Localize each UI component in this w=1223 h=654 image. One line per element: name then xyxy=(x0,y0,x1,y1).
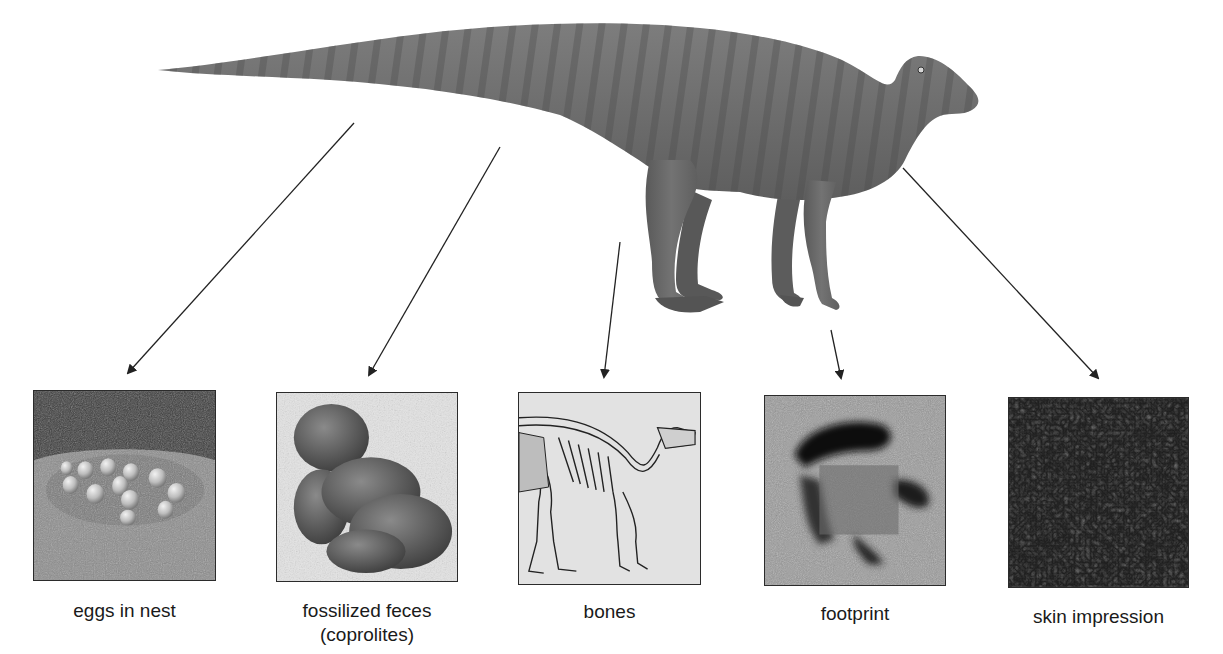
caption-text: skin impression xyxy=(1033,606,1164,627)
caption-eggs-in-nest: eggs in nest xyxy=(33,599,216,623)
fossil-evidence-diagram: eggs in nest fossilized feces (coprolite… xyxy=(0,0,1223,654)
caption-text: bones xyxy=(584,601,636,622)
caption-text: fossilized feces xyxy=(256,599,478,623)
caption-subtext: (coprolites) xyxy=(256,623,478,647)
caption-text: footprint xyxy=(821,603,890,624)
caption-skin-impression: skin impression xyxy=(998,605,1199,629)
skin-impression-image xyxy=(1008,397,1189,588)
caption-footprint: footprint xyxy=(764,602,946,626)
coprolite-image xyxy=(276,392,458,582)
caption-text: eggs in nest xyxy=(73,600,175,621)
footprint-image xyxy=(764,395,946,586)
caption-coprolites: fossilized feces (coprolites) xyxy=(256,599,478,647)
skeleton-image xyxy=(518,392,701,585)
caption-bones: bones xyxy=(518,600,701,624)
eggs-in-nest-image xyxy=(33,390,216,581)
